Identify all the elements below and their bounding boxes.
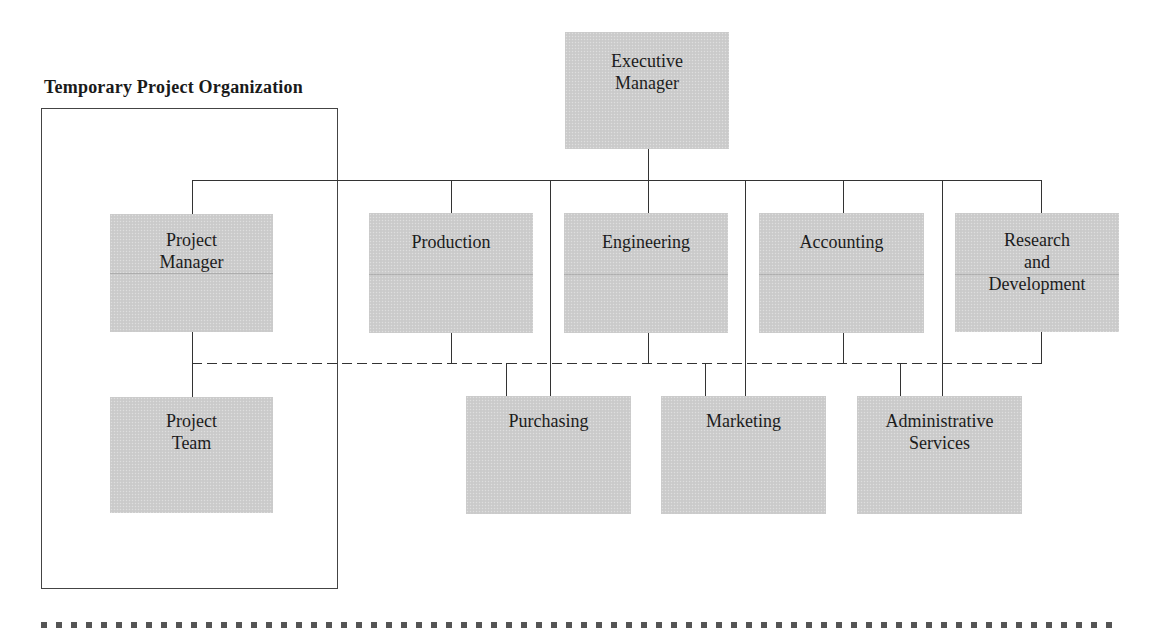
dashed-project-link-bus <box>192 363 1042 364</box>
dashed-link-purchasing <box>506 363 507 396</box>
node-project-manager: Project Manager <box>110 214 273 332</box>
dashed-link-marketing <box>705 363 706 396</box>
dashed-link-administrative-services <box>900 363 901 396</box>
dotted-separator-rule <box>41 622 1119 628</box>
node-label: Marketing <box>661 410 826 432</box>
dashed-link-production <box>451 333 452 363</box>
node-label: Production <box>369 231 533 253</box>
temporary-project-organization-title: Temporary Project Organization <box>44 77 303 98</box>
node-administrative-services: Administrative Services <box>857 396 1022 514</box>
node-purchasing: Purchasing <box>466 396 631 514</box>
node-label: Executive Manager <box>565 50 729 94</box>
node-divider <box>110 273 273 274</box>
node-research-and-development: Research and Development <box>955 213 1119 332</box>
node-project-team: Project Team <box>110 397 273 513</box>
dashed-link-engineering <box>648 333 649 363</box>
node-label: Engineering <box>564 231 728 253</box>
connector-to-engineering <box>648 180 649 213</box>
dashed-link-research-development <box>1041 332 1042 363</box>
node-divider <box>369 274 533 275</box>
node-label: Purchasing <box>466 410 631 432</box>
connector-executive-down <box>648 149 649 180</box>
connector-to-project-manager <box>192 180 193 214</box>
connector-project-manager-to-team <box>192 332 193 397</box>
node-marketing: Marketing <box>661 396 826 514</box>
node-label: Research and Development <box>955 229 1119 295</box>
connector-to-research-development <box>1041 180 1042 213</box>
connector-to-production <box>451 180 452 213</box>
node-label: Administrative Services <box>857 410 1022 454</box>
node-divider <box>759 274 924 275</box>
node-accounting: Accounting <box>759 213 924 333</box>
dashed-link-accounting <box>843 333 844 363</box>
node-production: Production <box>369 213 533 333</box>
node-label: Accounting <box>759 231 924 253</box>
node-divider <box>564 274 728 275</box>
node-executive-manager: Executive Manager <box>565 32 729 149</box>
connector-top-bus <box>192 180 1042 181</box>
node-label: Project Team <box>110 410 273 454</box>
connector-to-accounting <box>843 180 844 213</box>
node-label: Project Manager <box>110 229 273 273</box>
node-engineering: Engineering <box>564 213 728 333</box>
